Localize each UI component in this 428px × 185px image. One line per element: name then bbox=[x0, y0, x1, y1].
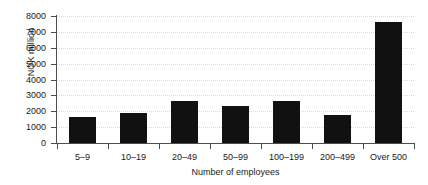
x-axis-tick-label: 100–199 bbox=[261, 152, 312, 162]
bar bbox=[375, 22, 402, 143]
x-axis-tick bbox=[312, 144, 313, 149]
y-axis-tick-label: 8000 bbox=[0, 12, 46, 21]
y-axis-line bbox=[56, 15, 57, 144]
y-axis-tick-label: 2000 bbox=[0, 107, 46, 116]
x-axis-tick-label: 10–19 bbox=[108, 152, 159, 162]
y-axis-tick bbox=[51, 95, 56, 96]
y-axis-tick bbox=[51, 111, 56, 112]
x-axis-title: Number of employees bbox=[57, 167, 414, 177]
x-axis-tick-label: Over 500 bbox=[363, 152, 414, 162]
y-axis-tick bbox=[51, 143, 56, 144]
bar bbox=[69, 117, 96, 143]
x-axis-tick bbox=[159, 144, 160, 149]
x-axis-tick-label: 5–9 bbox=[57, 152, 108, 162]
y-axis-tick-label: 3000 bbox=[0, 91, 46, 100]
bar bbox=[273, 101, 300, 143]
bar bbox=[222, 106, 249, 143]
y-axis-tick bbox=[51, 32, 56, 33]
gridline bbox=[57, 48, 414, 49]
x-axis-tick bbox=[210, 144, 211, 149]
gridline bbox=[57, 95, 414, 96]
x-axis-tick bbox=[108, 144, 109, 149]
y-axis-tick bbox=[51, 16, 56, 17]
bar-chart-figure: NOK million 0100020003000400050006000700… bbox=[0, 0, 428, 185]
y-axis-tick-label: 4000 bbox=[0, 76, 46, 85]
gridline bbox=[57, 32, 414, 33]
y-axis-tick bbox=[51, 127, 56, 128]
x-axis-line bbox=[56, 143, 415, 144]
x-axis-tick bbox=[363, 144, 364, 149]
y-axis-tick-label: 0 bbox=[0, 139, 46, 148]
y-axis-tick-label: 5000 bbox=[0, 60, 46, 69]
x-axis-tick-label: 200–499 bbox=[312, 152, 363, 162]
y-axis-tick bbox=[51, 48, 56, 49]
y-axis-tick-label: 6000 bbox=[0, 44, 46, 53]
x-axis-tick bbox=[261, 144, 262, 149]
y-axis-tick bbox=[51, 64, 56, 65]
x-axis-tick bbox=[414, 144, 415, 149]
y-axis-tick bbox=[51, 80, 56, 81]
bar bbox=[171, 101, 198, 143]
bar bbox=[120, 113, 147, 143]
gridline bbox=[57, 64, 414, 65]
bar bbox=[324, 115, 351, 143]
plot-area bbox=[57, 16, 414, 143]
x-axis-tick-label: 20–49 bbox=[159, 152, 210, 162]
gridline bbox=[57, 16, 414, 17]
x-axis-tick-label: 50–99 bbox=[210, 152, 261, 162]
x-axis-tick bbox=[57, 144, 58, 149]
y-axis-tick-label: 7000 bbox=[0, 28, 46, 37]
y-axis-tick-label: 1000 bbox=[0, 123, 46, 132]
gridline bbox=[57, 80, 414, 81]
